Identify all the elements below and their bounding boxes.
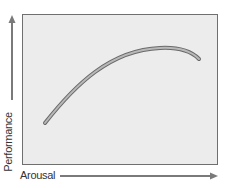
x-axis-arrow-icon	[60, 173, 218, 180]
x-axis-label: Arousal	[20, 169, 55, 181]
performance-curve	[45, 48, 199, 123]
diagram-graphics	[0, 0, 227, 188]
y-axis-arrow-icon	[9, 15, 16, 100]
y-axis-label: Performance	[2, 111, 14, 173]
